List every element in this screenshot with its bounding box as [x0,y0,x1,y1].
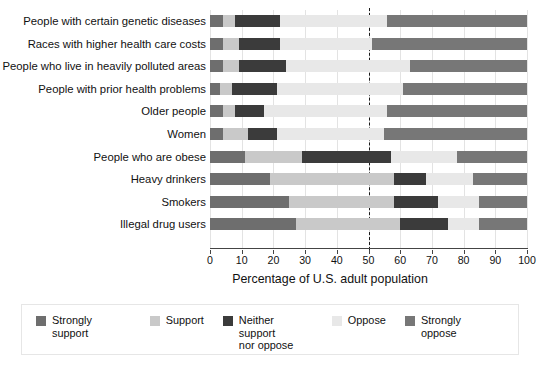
bar-row: Smokers [0,191,540,214]
category-label: Women [167,123,206,146]
x-axis-line [210,248,528,249]
bar-segment[interactable] [277,83,404,95]
bar-segment[interactable] [232,83,276,95]
legend-swatch [150,316,160,326]
bar-segment[interactable] [239,60,287,72]
bar-segment[interactable] [448,218,480,230]
bar-segment[interactable] [270,173,394,185]
category-label: Heavy drinkers [131,168,206,191]
bar-segment[interactable] [210,128,223,140]
stacked-bar[interactable] [210,218,527,230]
bar-segment[interactable] [223,15,236,27]
bar-segment[interactable] [223,38,239,50]
legend-label: Support [166,314,204,327]
stacked-bar[interactable] [210,196,527,208]
bar-segment[interactable] [280,15,388,27]
bar-row: People who are obese [0,146,540,169]
x-tick-label: 100 [507,254,540,266]
bar-segment[interactable] [210,105,223,117]
category-label: People with certain genetic diseases [23,10,206,33]
legend-item[interactable]: Support [150,314,204,327]
stacked-bar[interactable] [210,105,527,117]
category-label: Smokers [161,191,206,214]
bar-segment[interactable] [473,173,527,185]
bar-segment[interactable] [479,196,527,208]
legend-item[interactable]: Strongly oppose [405,314,499,339]
bar-segment[interactable] [210,173,270,185]
bar-row: People with prior health problems [0,78,540,101]
bar-segment[interactable] [223,60,239,72]
legend-swatch [332,316,342,326]
bar-row: Older people [0,100,540,123]
bar-segment[interactable] [394,173,426,185]
bar-segment[interactable] [239,38,280,50]
bar-segment[interactable] [286,60,410,72]
bar-segment[interactable] [372,38,527,50]
bar-segment[interactable] [391,151,458,163]
bar-segment[interactable] [280,38,372,50]
bar-row: Women [0,123,540,146]
bar-segment[interactable] [400,218,448,230]
legend-label: Strongly support [52,314,131,339]
bar-segment[interactable] [384,128,527,140]
legend-swatch [405,316,415,326]
bar-segment[interactable] [245,151,302,163]
bar-segment[interactable] [438,196,479,208]
category-label: People with prior health problems [38,78,206,101]
bar-segment[interactable] [223,105,236,117]
bar-segment[interactable] [210,15,223,27]
stacked-bar[interactable] [210,38,527,50]
bar-segment[interactable] [235,105,264,117]
stacked-bar[interactable] [210,173,527,185]
bar-segment[interactable] [264,105,388,117]
bar-segment[interactable] [210,60,223,72]
bar-segment[interactable] [403,83,527,95]
stacked-bar[interactable] [210,60,527,72]
stacked-bar[interactable] [210,128,527,140]
legend-swatch [36,316,46,326]
bar-segment[interactable] [210,38,223,50]
bar-segment[interactable] [210,151,245,163]
legend-item[interactable]: Strongly support [36,314,131,339]
bar-segment[interactable] [296,218,401,230]
x-axis-title-text: Percentage of U.S. adult population [232,272,428,286]
bar-segment[interactable] [223,128,248,140]
bar-segment[interactable] [248,128,277,140]
bar-segment[interactable] [457,151,527,163]
bar-segment[interactable] [210,196,289,208]
bar-segment[interactable] [394,196,438,208]
bar-segment[interactable] [235,15,279,27]
category-label: People who are obese [94,146,206,169]
category-label: Older people [141,100,206,123]
bar-segment[interactable] [210,218,296,230]
plot-area: People with certain genetic diseasesRace… [0,0,540,300]
category-label: People who live in heavily polluted area… [3,55,206,78]
bar-row: People with certain genetic diseases [0,10,540,33]
stacked-bar[interactable] [210,151,527,163]
bar-segment[interactable] [410,60,527,72]
stacked-bar[interactable] [210,15,527,27]
bar-segment[interactable] [277,128,385,140]
bar-segment[interactable] [289,196,394,208]
legend-item[interactable]: Neither support nor oppose [223,314,313,352]
category-label: Illegal drug users [120,213,206,236]
legend-label: Oppose [348,314,386,327]
category-label: Races with higher health care costs [28,33,206,56]
x-axis-title: Percentage of U.S. adult population [0,272,540,286]
bar-segment[interactable] [210,83,220,95]
bar-row: Heavy drinkers [0,168,540,191]
bar-segment[interactable] [426,173,474,185]
bar-segment[interactable] [220,83,233,95]
bar-row: People who live in heavily polluted area… [0,55,540,78]
bar-segment[interactable] [479,218,527,230]
bar-row: Races with higher health care costs [0,33,540,56]
legend-label: Strongly oppose [421,314,499,339]
legend-label: Neither support nor oppose [239,314,313,352]
bar-segment[interactable] [302,151,391,163]
legend-item[interactable]: Oppose [332,314,386,327]
chart-legend: Strongly supportSupportNeither support n… [21,304,519,355]
bar-segment[interactable] [387,105,526,117]
bar-segment[interactable] [387,15,526,27]
bar-row: Illegal drug users [0,213,540,236]
stacked-bar[interactable] [210,83,527,95]
